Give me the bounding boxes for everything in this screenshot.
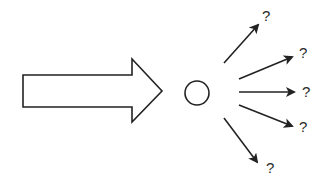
outcome-arrow-1 [224,25,258,63]
outcome-label-1: ? [262,7,270,24]
outcome-label-2: ? [299,44,307,61]
outcome-arrow-2 [239,57,292,79]
outcome-label-3: ? [302,83,310,100]
divergence-diagram: ? ? ? ? ? [0,0,330,186]
outcome-arrow-5 [224,118,257,162]
outcome-label-5: ? [266,159,274,176]
outcome-arrow-4 [239,105,292,126]
input-block-arrow [23,59,162,122]
outcome-label-4: ? [299,118,307,135]
central-node-circle [185,81,209,105]
